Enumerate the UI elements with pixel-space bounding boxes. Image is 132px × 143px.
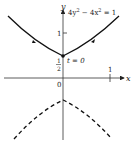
y-tick-label-1: 1: [57, 30, 61, 38]
x-tick-label-1: 1: [108, 66, 112, 74]
origin-label: 0: [57, 81, 61, 89]
y-axis-label: y: [60, 2, 66, 11]
hyperbola-figure: y x 4y2 − 4x2 = 1 1 1 2 t = 0 0 1: [0, 0, 132, 143]
half-denominator: 2: [57, 65, 61, 72]
param-label: t = 0: [67, 57, 85, 65]
equation-label: 4y2 − 4x2 = 1: [68, 7, 116, 17]
half-numerator: 1: [57, 57, 61, 64]
vertex-point: [61, 54, 65, 58]
direction-arrow-left: [32, 40, 36, 43]
upper-branch-curve: [8, 16, 119, 56]
x-axis-label: x: [126, 74, 131, 83]
